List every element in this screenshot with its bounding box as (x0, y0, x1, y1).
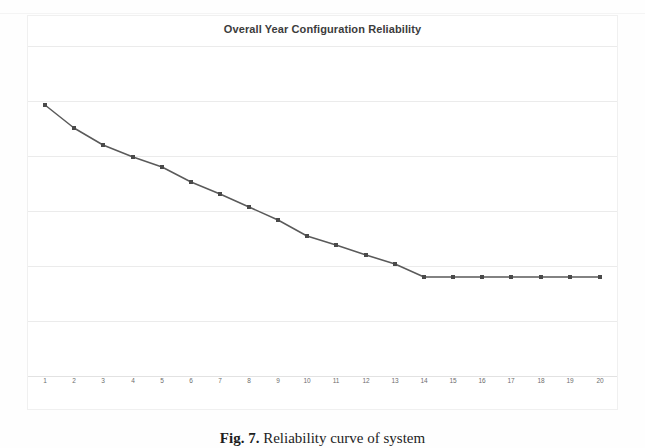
x-tick-label-2: 2 (72, 377, 76, 384)
x-tick-label-16: 16 (478, 377, 485, 384)
scan-artifact-top (0, 13, 645, 14)
x-tick-label-12: 12 (362, 377, 369, 384)
x-tick-label-10: 10 (303, 377, 310, 384)
figure-caption: Fig. 7. Reliability curve of system (0, 430, 645, 447)
gridline-5 (28, 321, 617, 322)
x-tick-label-13: 13 (391, 377, 398, 384)
plot-area (28, 16, 617, 376)
x-tick-label-8: 8 (247, 377, 251, 384)
x-tick-label-11: 11 (333, 377, 340, 384)
figure-caption-text: Reliability curve of system (263, 430, 425, 446)
gridline-1 (28, 101, 617, 102)
gridline-0 (28, 46, 617, 47)
x-tick-label-3: 3 (101, 377, 105, 384)
gridline-3 (28, 211, 617, 212)
x-tick-label-19: 19 (566, 377, 573, 384)
x-tick-label-4: 4 (131, 377, 135, 384)
x-axis-labels: 1234567891011121314151617181920 (0, 377, 645, 391)
x-tick-label-17: 17 (507, 377, 514, 384)
x-tick-label-20: 20 (596, 377, 603, 384)
figure-caption-label: Fig. 7. (220, 430, 260, 446)
x-tick-label-6: 6 (189, 377, 193, 384)
gridline-4 (28, 266, 617, 267)
scanned-page: Overall Year Configuration Reliability 1… (0, 0, 645, 448)
x-tick-label-9: 9 (276, 377, 280, 384)
x-tick-label-14: 14 (420, 377, 427, 384)
x-tick-label-1: 1 (43, 377, 47, 384)
x-tick-label-15: 15 (449, 377, 456, 384)
gridline-2 (28, 156, 617, 157)
x-tick-label-5: 5 (160, 377, 164, 384)
x-tick-label-18: 18 (537, 377, 544, 384)
x-tick-label-7: 7 (218, 377, 222, 384)
